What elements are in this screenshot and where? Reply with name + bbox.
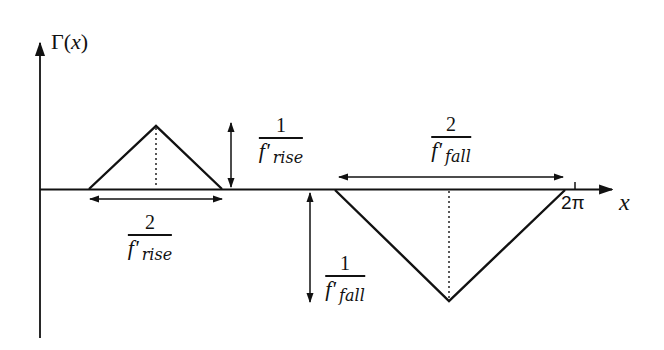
fraction-numerator: 1	[274, 115, 288, 137]
fall-triangle	[335, 190, 565, 301]
fraction-numerator: 2	[143, 212, 157, 234]
y-axis-label: Γ(x)	[51, 29, 88, 55]
rise-triangle	[89, 126, 222, 189]
paren-close: )	[81, 29, 88, 54]
fraction-numerator: 1	[338, 253, 352, 275]
fraction-denominator: f'rise	[259, 139, 303, 164]
fall-width-label: 2 f'fall	[431, 114, 471, 163]
fraction-denominator: f'rise	[128, 236, 172, 261]
fraction-numerator: 2	[444, 114, 458, 136]
paren-open: (	[64, 29, 71, 54]
f-prime: f'	[128, 235, 139, 260]
rise-height-label: 1 f'rise	[259, 115, 303, 164]
fall-height-label: 1 f'fall	[325, 253, 365, 302]
subscript: rise	[142, 245, 172, 264]
subscript: rise	[273, 148, 303, 167]
gamma-function-diagram: Γ(x) x 2π 1 f'rise 2 f'rise 2 f'fall 1 f…	[0, 0, 664, 350]
subscript: fall	[339, 286, 365, 305]
fraction-denominator: f'fall	[431, 138, 471, 163]
f-prime: f'	[431, 137, 442, 162]
x-tick-label-2pi: 2π	[561, 192, 585, 214]
f-prime: f'	[259, 138, 270, 163]
subscript: fall	[445, 147, 471, 166]
y-axis-variable: x	[71, 29, 81, 54]
x-axis	[40, 182, 612, 190]
rise-width-label: 2 f'rise	[128, 212, 172, 261]
fraction-denominator: f'fall	[325, 277, 365, 302]
f-prime: f'	[325, 276, 336, 301]
gamma-symbol: Γ	[51, 29, 64, 54]
x-axis-label: x	[619, 189, 630, 216]
